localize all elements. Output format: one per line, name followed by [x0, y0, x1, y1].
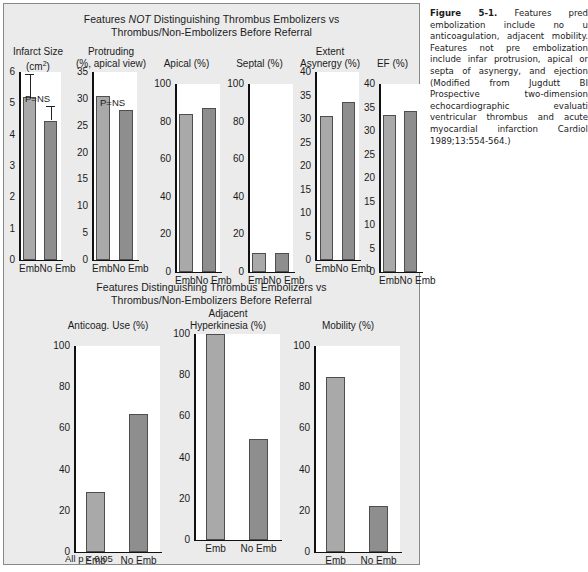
y-tick-label: 100 — [223, 79, 244, 89]
x-axis-labels: EmbNo Emb — [314, 555, 400, 567]
y-tick-label: 0 — [72, 255, 88, 265]
y-tick-label: 15 — [72, 174, 88, 184]
error-bar-cap — [25, 74, 34, 75]
x-axis-labels: EmbNo Emb — [19, 263, 61, 275]
bar-no-emb — [342, 102, 355, 260]
figure-caption: Figure 5-1. Features pred embolization i… — [430, 8, 588, 147]
x-tick-label: No Emb — [113, 263, 149, 275]
y-tick-label: 80 — [168, 370, 190, 380]
chart-septal: Septal (%)020406080100EmbNo Emb — [223, 45, 296, 273]
y-tick-label: 30 — [364, 126, 375, 136]
bottom-section-title-line1: Features Distinguishing Thrombus Emboliz… — [4, 281, 419, 294]
chart-protruding: Protruding(%, apical view)05101520253035… — [72, 45, 150, 273]
chart-title-line1: Anticoag. Use (%) — [48, 320, 168, 332]
error-bar-cap — [46, 106, 55, 107]
y-tick-label: 25 — [72, 121, 88, 131]
plot-wrap: 020406080100EmbNo Emb — [48, 346, 168, 572]
chart-ef: EF (%)0510152025303540EmbNo Emb — [364, 45, 421, 273]
p-value-annotation: P=NS — [25, 93, 50, 104]
x-tick-label: Emb — [194, 543, 237, 555]
y-tick-label: 100 — [48, 341, 70, 351]
y-axis — [315, 72, 317, 261]
top-title-not: NOT — [129, 13, 151, 25]
plot-wrap: 020406080100EmbNo Emb — [150, 84, 223, 294]
y-tick-label: 25 — [296, 138, 311, 148]
x-tick-label: Emb — [92, 263, 113, 275]
y-tick-label: 0 — [168, 535, 190, 545]
y-axis — [379, 84, 381, 273]
plot-wrap: 020406080100EmbNo Emb — [288, 346, 408, 572]
y-tick-label: 40 — [223, 192, 244, 202]
y-tick-label: 60 — [48, 423, 70, 433]
bar-no-emb — [44, 121, 57, 260]
y-tick-label: 35 — [72, 67, 88, 77]
y-tick-label: 60 — [223, 154, 244, 164]
y-tick-label: 80 — [48, 382, 70, 392]
y-tick-label: 100 — [150, 79, 171, 89]
y-tick-label: 0 — [288, 547, 310, 557]
y-tick-label: 100 — [288, 341, 310, 351]
top-chart-row: Infarct Size(cm2)0123456P=NSEmbNo EmbPro… — [4, 45, 421, 273]
top-title-pre: Features — [84, 13, 129, 25]
y-tick-label: 20 — [364, 173, 375, 183]
y-axis — [74, 346, 76, 553]
y-tick-label: 60 — [288, 423, 310, 433]
bar-no-emb — [202, 108, 216, 272]
y-tick-label: 10 — [364, 220, 375, 230]
y-tick-label: 20 — [223, 229, 244, 239]
bar-emb — [23, 97, 36, 260]
error-bar — [51, 106, 52, 120]
y-tick-label: 20 — [288, 506, 310, 516]
bar-emb — [320, 116, 333, 260]
chart-title-line1: Extent — [296, 46, 364, 58]
chart-adjacent: AdjacentHyperkinesia (%)020406080100EmbN… — [168, 307, 288, 557]
y-tick-label: 35 — [364, 103, 375, 113]
y-tick-label: 0 — [223, 267, 244, 277]
x-tick-label: Emb — [315, 263, 336, 275]
y-tick-label: 20 — [296, 161, 311, 171]
x-axis — [314, 552, 402, 553]
y-tick-label: 40 — [296, 67, 311, 77]
y-tick-label: 0 — [296, 255, 311, 265]
plot-wrap: 020406080100EmbNo Emb — [168, 334, 288, 562]
y-tick-label: 80 — [288, 382, 310, 392]
y-tick-label: 5 — [72, 228, 88, 238]
x-axis — [194, 540, 282, 541]
x-axis-labels: EmbNo Emb — [92, 263, 137, 275]
chart-title-line1: Mobility (%) — [288, 320, 408, 332]
y-tick-label: 6 — [4, 67, 15, 77]
y-tick-label: 40 — [48, 465, 70, 475]
y-tick-label: 15 — [364, 197, 375, 207]
x-axis-labels: EmbNo Emb — [315, 263, 359, 275]
top-section-title-line2: Thrombus/Non-Embolizers Before Referral — [4, 26, 419, 39]
y-tick-label: 20 — [48, 506, 70, 516]
y-tick-label: 0 — [364, 267, 375, 277]
y-tick-label: 10 — [72, 201, 88, 211]
x-tick-label: Emb — [19, 263, 40, 275]
chart-title-line1: EF (%) — [364, 58, 421, 70]
y-tick-label: 5 — [296, 232, 311, 242]
y-tick-label: 60 — [168, 411, 190, 421]
y-axis — [175, 84, 177, 273]
plot-wrap: 05101520253035P=NSEmbNo Emb — [72, 72, 150, 282]
y-tick-label: 80 — [150, 117, 171, 127]
x-tick-label: No Emb — [357, 555, 400, 567]
y-tick-label: 35 — [296, 91, 311, 101]
bottom-chart-row: Anticoag. Use (%)020406080100EmbNo EmbAd… — [48, 307, 421, 557]
bar-emb — [86, 492, 105, 552]
top-section-title: Features NOT Distinguishing Thrombus Emb… — [4, 13, 419, 39]
significance-note: All p < 0.05 — [65, 553, 113, 564]
chart-apical: Apical (%)020406080100EmbNo Emb — [150, 45, 223, 273]
plot-wrap: 020406080100EmbNo Emb — [223, 84, 296, 294]
chart-infarct-size: Infarct Size(cm2)0123456P=NSEmbNo Emb — [4, 45, 72, 273]
y-axis — [194, 334, 196, 541]
y-tick-label: 80 — [223, 117, 244, 127]
y-tick-label: 20 — [150, 229, 171, 239]
y-tick-label: 20 — [72, 148, 88, 158]
y-tick-label: 30 — [72, 94, 88, 104]
p-value-annotation: P=NS — [100, 97, 125, 108]
top-section-title-line1: Features NOT Distinguishing Thrombus Emb… — [4, 13, 419, 26]
chart-title-line1: Septal (%) — [223, 58, 296, 70]
bottom-section-title: Features Distinguishing Thrombus Emboliz… — [4, 281, 419, 307]
x-tick-label: No Emb — [117, 555, 160, 567]
